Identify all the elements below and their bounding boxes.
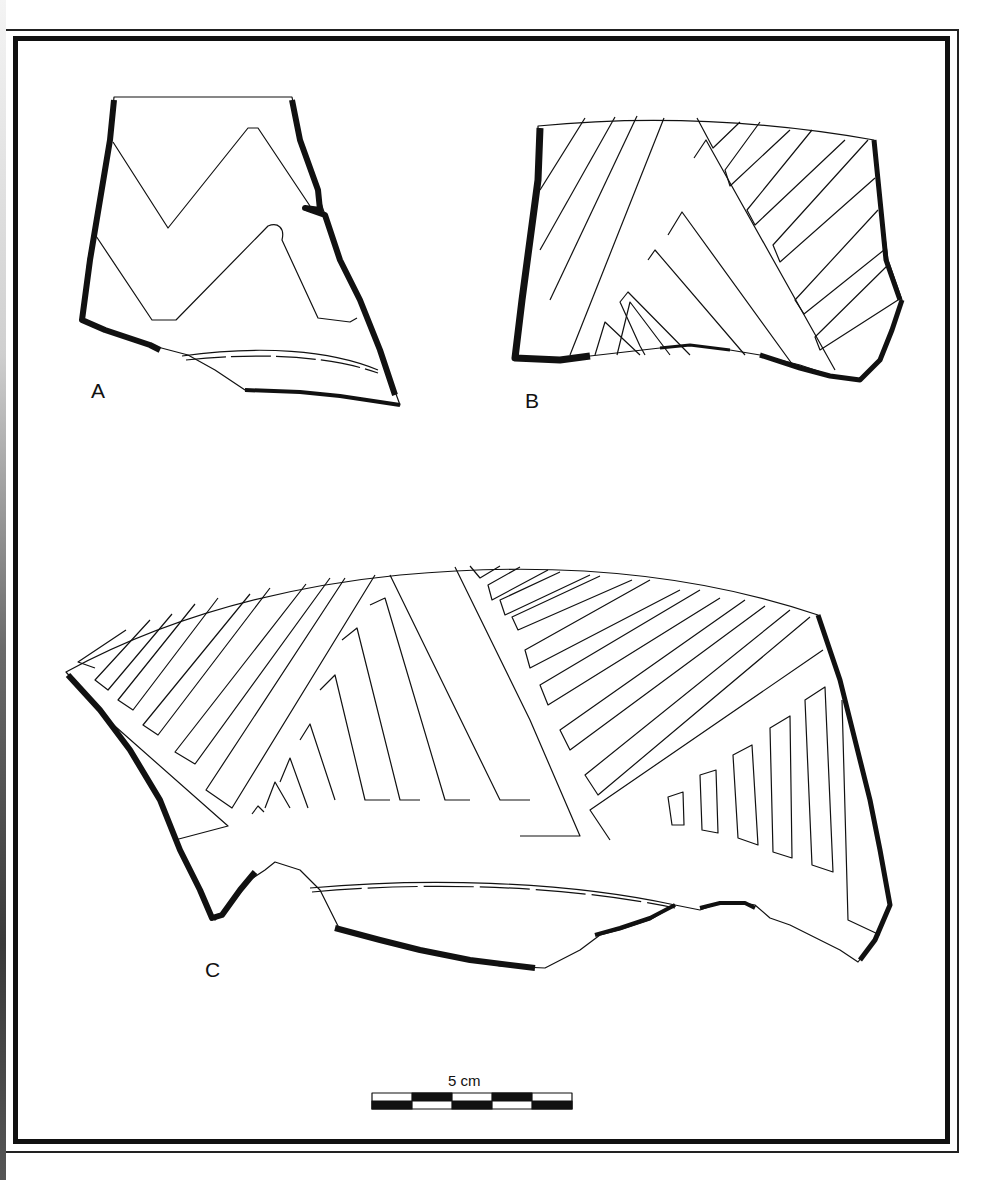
sherd-label-a: A [91, 379, 105, 403]
sherd-b-drawing [513, 116, 902, 380]
sherd-label-b: B [525, 389, 539, 413]
sherd-c-drawing [66, 566, 890, 968]
scale-bar-label: 5 cm [448, 1072, 481, 1089]
figure-plate [0, 0, 983, 1180]
sherd-label-c: C [205, 958, 220, 982]
sherd-a-drawing [82, 97, 400, 405]
scale-bar [372, 1093, 572, 1109]
